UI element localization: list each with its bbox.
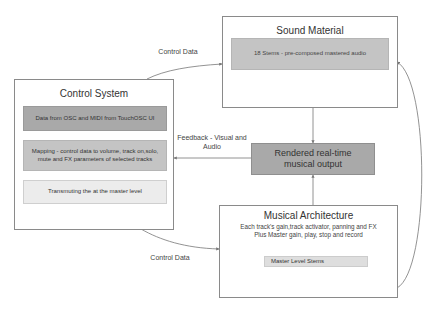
edge-label-feedback: Feedback - Visual and Audio: [176, 134, 248, 152]
rendered-output-box: Rendered real-time musical output: [251, 143, 375, 175]
edge-control-to-architecture: [141, 229, 219, 249]
edge-architecture-to-sound: [397, 62, 422, 288]
master-level-stems-label: Master Level Stems: [271, 258, 324, 265]
transmuting-item-label: Transmuting the at the master level: [48, 188, 142, 195]
stems-item: 18 Stems - pre-composed mastered audio: [231, 38, 389, 70]
musical-architecture-desc-2: Plus Master gain, play, stop and record: [220, 231, 397, 238]
transmuting-item: Transmuting the at the master level: [23, 180, 167, 204]
musical-architecture-box: Musical Architecture Each track's gain,t…: [219, 205, 398, 298]
control-system-title: Control System: [15, 88, 173, 99]
osc-midi-item-label: Data from OSC and MIDI from TouchOSC UI: [36, 115, 155, 122]
musical-architecture-desc-1: Each track's gain,track activator, panni…: [220, 223, 397, 230]
rendered-output-label: Rendered real-time musical output: [268, 148, 358, 170]
musical-architecture-title: Musical Architecture: [220, 210, 397, 221]
edge-label-control-data-bottom: Control Data: [140, 254, 200, 263]
mapping-item-label: Mapping - control data to volume, track …: [30, 148, 160, 162]
master-level-stems-item: Master Level Stems: [264, 256, 368, 267]
sound-material-title: Sound Material: [223, 25, 397, 36]
edge-label-control-data-top: Control Data: [148, 48, 208, 57]
osc-midi-item: Data from OSC and MIDI from TouchOSC UI: [23, 106, 167, 131]
stems-item-label: 18 Stems - pre-composed mastered audio: [254, 50, 366, 57]
mapping-item: Mapping - control data to volume, track …: [23, 140, 167, 171]
sound-material-box: Sound Material 18 Stems - pre-composed m…: [222, 16, 398, 108]
control-system-box: Control System Data from OSC and MIDI fr…: [14, 79, 174, 230]
edge-control-to-sound: [147, 64, 222, 79]
